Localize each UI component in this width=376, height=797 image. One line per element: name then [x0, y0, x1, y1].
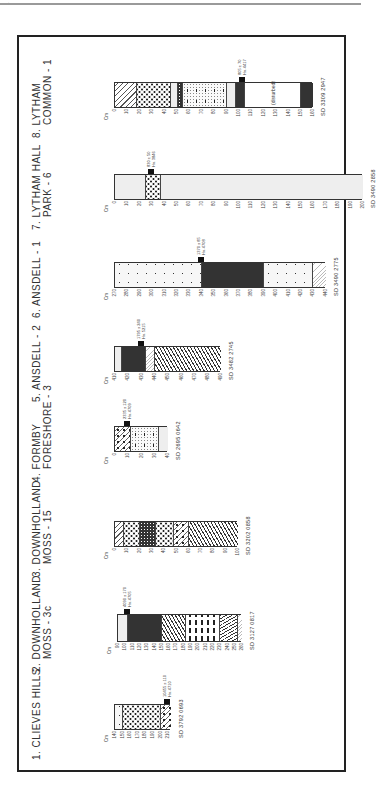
- depth-unit-label: Cm: [104, 205, 109, 212]
- depth-tick-label: 320: [174, 289, 179, 297]
- radiocarbon-sample-marker: [124, 609, 130, 614]
- depth-tick-label: 150: [298, 109, 303, 117]
- depth-tick-label: 50: [173, 548, 178, 553]
- depth-unit-label: Cm: [107, 647, 112, 654]
- radiocarbon-sample-marker: [148, 169, 154, 174]
- depth-tick-label: 70: [198, 109, 203, 114]
- page-mark: ·: [8, 0, 9, 5]
- site-number: 1.: [31, 751, 42, 760]
- depth-tick-label: 30: [149, 109, 154, 114]
- layer-label: (disturbed): [270, 81, 276, 105]
- site-name: DOWNHOLLAND: [31, 575, 42, 659]
- depth-tick-label: 50: [174, 109, 179, 114]
- site-name: LYTHAM: [31, 83, 42, 126]
- depth-tick-label: 80: [211, 201, 216, 206]
- site-name: CLIEVES HILLS: [31, 668, 42, 747]
- depth-tick-label: 80: [210, 548, 215, 553]
- depth-tick-label: 100: [236, 109, 241, 117]
- depth-tick-label: 430: [310, 289, 315, 297]
- depth-tick-label: 140: [285, 109, 290, 117]
- depth-tick-label: 10: [125, 453, 130, 458]
- depth-tick-label: 40: [161, 548, 166, 553]
- radiocarbon-sample-marker: [138, 341, 144, 346]
- site-name: ANSDELL - 2: [31, 325, 42, 390]
- depth-tick-label: 30: [151, 453, 156, 458]
- depth-tick-label: 370: [236, 289, 241, 297]
- sediment-layer-stipple: [115, 175, 146, 199]
- depth-unit-label: Cm: [104, 552, 109, 559]
- depth-tick-label: 100: [122, 643, 127, 651]
- depth-tick-label: 130: [144, 643, 149, 651]
- depth-tick-label: 30: [149, 201, 154, 206]
- depth-tick-label: 0: [112, 201, 117, 204]
- depth-tick-label: 20: [136, 109, 141, 114]
- radiocarbon-sample-marker: [124, 421, 130, 426]
- depth-tick-label: 200: [360, 201, 365, 209]
- site-title: 5. ANSDELL - 2: [31, 325, 53, 402]
- depth-tick-label: 190: [150, 731, 155, 739]
- sediment-layer-circles: [124, 522, 140, 546]
- site-name-line2: MOSS - 15: [42, 510, 53, 564]
- sediment-core: (disturbed): [114, 82, 312, 108]
- sediment-layer-mixed: [174, 522, 189, 546]
- sediment-core: [114, 426, 167, 452]
- depth-tick-label: 110: [129, 643, 134, 650]
- site-name: FORMBY: [31, 424, 42, 470]
- depth-tick-label: 60: [186, 109, 191, 114]
- sediment-layer-dots: [264, 263, 314, 287]
- site-title: 1. CLIEVES HILLS: [31, 668, 53, 760]
- depth-tick-label: 410: [285, 289, 290, 297]
- site-name-line2: PARK - 6: [42, 172, 53, 217]
- depth-tick-label: 10: [124, 201, 129, 206]
- sediment-layer-dash: [186, 615, 220, 641]
- depth-tick-label: 20: [136, 201, 141, 206]
- radiocarbon-date: 830 ± 50Hv. 3846: [146, 151, 156, 167]
- depth-tick-label: 170: [322, 201, 327, 209]
- depth-tick-label: 140: [151, 643, 156, 651]
- sediment-layer-dense: [202, 263, 264, 287]
- depth-tick-label: 150: [298, 201, 303, 209]
- depth-tick-label: 390: [260, 289, 265, 297]
- depth-tick-label: 40: [165, 453, 170, 458]
- depth-tick-label: 190: [347, 201, 352, 209]
- sediment-layer-plain: (disturbed): [245, 83, 301, 107]
- radiocarbon-date: 1795 ± 240Hv. 5215: [136, 319, 146, 339]
- site-number: 2.: [31, 663, 42, 672]
- sediment-core: [117, 614, 241, 642]
- sediment-layer-stipple: [159, 427, 168, 451]
- sediment-layer-light: [146, 347, 155, 371]
- sediment-core: [114, 174, 362, 200]
- grid-reference: SD 3482 2745: [228, 341, 234, 380]
- depth-tick-label: 130: [273, 109, 278, 117]
- sediment-layer-mixed: [115, 427, 131, 451]
- depth-tick-label: 0: [112, 453, 117, 456]
- depth-tick-label: 40: [161, 109, 166, 114]
- depth-tick-label: 270: [112, 289, 117, 297]
- grid-reference: SD 3490 2775: [333, 257, 339, 296]
- sediment-layer-wave: [189, 522, 238, 546]
- depth-tick-label: 410: [112, 373, 117, 381]
- depth-tick-label: 290: [136, 289, 141, 297]
- sediment-layer-dense: [301, 83, 313, 107]
- stratigraphy-figure: 1. CLIEVES HILLSCm1401501601701801902002…: [17, 35, 346, 772]
- sediment-layer-black: [140, 522, 156, 546]
- depth-tick-label: 210: [165, 731, 170, 739]
- sediment-layer-stipple: [115, 347, 122, 371]
- sediment-layer-mixed: [161, 705, 172, 729]
- site-name: ANSDELL - 1: [31, 241, 42, 306]
- date-lab-code: Hv. 4710: [167, 681, 172, 697]
- depth-tick-label: 160: [166, 643, 171, 651]
- site-title: 6. ANSDELL - 1: [31, 241, 53, 318]
- grid-reference: SD 3202 0858: [245, 516, 251, 555]
- sediment-layer-circles: [146, 175, 161, 199]
- depth-tick-label: 430: [138, 373, 143, 381]
- depth-tick-label: 280: [124, 289, 129, 297]
- date-lab-code: Hv. 3846: [151, 151, 156, 167]
- depth-tick-label: 30: [148, 548, 153, 553]
- depth-tick-label: 460: [178, 373, 183, 381]
- sediment-layer-dots: [115, 705, 123, 729]
- sediment-layer-diag: [115, 522, 124, 546]
- depth-tick-label: 120: [260, 109, 265, 117]
- depth-tick-label: 60: [185, 548, 190, 553]
- depth-tick-label: 490: [218, 373, 223, 381]
